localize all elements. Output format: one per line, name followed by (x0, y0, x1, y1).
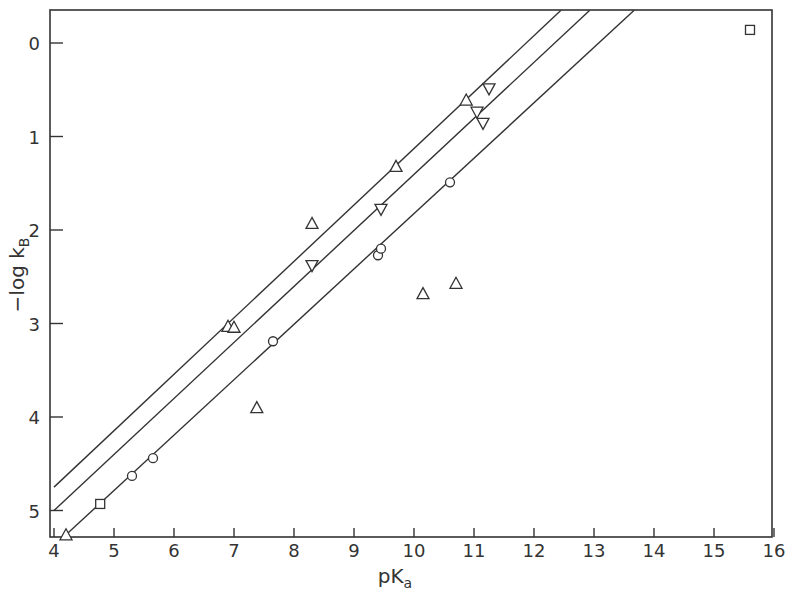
y-tick-label: 3 (29, 314, 40, 335)
y-tick-label: 0 (29, 33, 40, 54)
square-marker (746, 25, 755, 34)
x-tick-label: 4 (48, 540, 59, 561)
triangle-down-marker (471, 107, 483, 118)
triangle-up-marker (450, 277, 462, 288)
circle-marker (446, 178, 455, 187)
x-tick-label: 15 (703, 540, 726, 561)
x-tick-label: 13 (583, 540, 606, 561)
triangle-up-marker (417, 288, 429, 299)
line-1 (54, 10, 561, 487)
x-tick-label: 14 (643, 540, 666, 561)
x-tick-label: 10 (403, 540, 426, 561)
y-axis-ticks: 012345 (29, 33, 63, 522)
y-tick-label: 4 (29, 407, 40, 428)
y-axis-label: −log kB (5, 238, 32, 313)
square-marker (96, 499, 105, 508)
x-axis-ticks: 45678910111213141516 (48, 528, 785, 561)
y-tick-label: 5 (29, 501, 40, 522)
x-tick-label: 6 (168, 540, 179, 561)
circle-marker (377, 244, 386, 253)
x-tick-label: 16 (763, 540, 786, 561)
x-tick-label: 5 (108, 540, 119, 561)
line-2 (54, 10, 590, 510)
plot-frame (50, 10, 772, 537)
y-tick-label: 1 (29, 127, 40, 148)
circle-marker (149, 454, 158, 463)
triangle-down-marker (483, 84, 495, 95)
circle-marker (128, 471, 137, 480)
x-tick-label: 8 (288, 540, 299, 561)
x-tick-label: 7 (228, 540, 239, 561)
x-tick-label: 9 (348, 540, 359, 561)
plot-border (50, 10, 772, 537)
triangle-up-marker (251, 402, 263, 413)
x-axis-label: pKa (378, 564, 412, 591)
x-tick-label: 11 (463, 540, 486, 561)
fit-lines (54, 10, 634, 535)
data-points (60, 25, 755, 539)
scatter-chart: 45678910111213141516 012345 pKa −log kB (0, 0, 792, 596)
triangle-up-marker (306, 217, 318, 228)
x-tick-label: 12 (523, 540, 546, 561)
circle-marker (269, 337, 278, 346)
triangle-down-marker (477, 118, 489, 129)
